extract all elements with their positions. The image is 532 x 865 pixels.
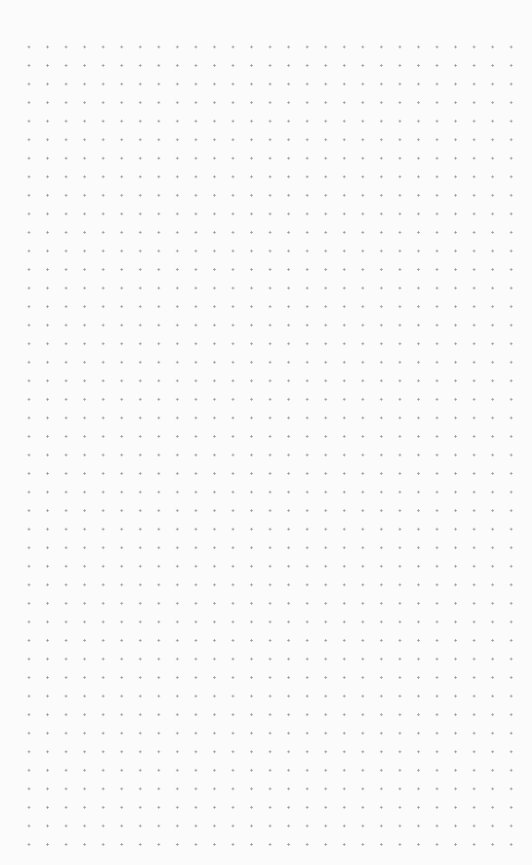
canvas-margin-top	[0, 0, 532, 38]
canvas-margin-right	[523, 0, 532, 865]
canvas-margin-bottom	[0, 852, 532, 865]
canvas-margin-left	[0, 0, 20, 865]
dot-grid-canvas[interactable]	[0, 0, 532, 865]
